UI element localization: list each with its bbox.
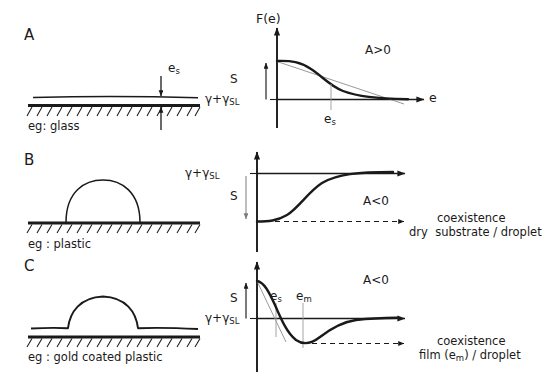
substrate-hatching-b <box>27 225 200 234</box>
diagram-vector-layer <box>0 0 552 385</box>
panel-b-schematic <box>27 180 200 233</box>
substrate-caption-a: eg: glass <box>28 120 79 133</box>
baseline-sub-c: SL <box>229 316 239 326</box>
panel-c-schematic <box>27 297 200 348</box>
spreading-coefficient-a: S <box>230 73 238 87</box>
substrate-caption-c: eg : gold coated plastic <box>28 351 163 364</box>
coexistence-line2-c: film (em) / droplet <box>419 348 521 363</box>
spreading-coefficient-c: S <box>230 292 238 306</box>
substrate-hatching-a <box>27 107 200 116</box>
baseline-sub-b: SL <box>209 171 219 181</box>
droplet-b <box>66 180 140 223</box>
y-axis-title-a: F(e) <box>256 12 281 26</box>
es-tick-sub-a: s <box>331 117 335 127</box>
figure-root: A eg: glass es F(e) e S γ+γSL A>0 es B e… <box>0 0 552 385</box>
coex-post-c: ) / droplet <box>464 348 521 362</box>
baseline-main-c: γ+γ <box>205 311 229 325</box>
coexistence-line2-b: dry substrate / droplet <box>409 225 542 239</box>
es-tick-label-a: es <box>324 113 336 128</box>
coex-sub-c: m <box>456 353 464 363</box>
es-tick-sub-c: s <box>277 294 281 304</box>
em-tick-label-c: em <box>296 290 312 305</box>
baseline-main-a: γ+γ <box>205 92 229 106</box>
em-tick-sub-c: m <box>303 294 311 304</box>
film-thickness-label-a: es <box>168 62 180 77</box>
panel-a-graph <box>266 28 424 128</box>
x-axis-title-a: e <box>429 91 437 105</box>
panel-letter-a: A <box>24 27 35 44</box>
substrate-hatching-c <box>27 339 200 348</box>
coexistence-line1-c: coexistence <box>437 334 506 348</box>
baseline-main-b: γ+γ <box>185 166 209 180</box>
film-thickness-sub-a: s <box>175 66 179 76</box>
substrate-caption-b: eg : plastic <box>28 238 91 251</box>
baseline-label-c: γ+γSL <box>205 312 239 327</box>
free-energy-curve-a <box>277 61 408 99</box>
panel-letter-c: C <box>24 258 35 275</box>
coex-pre-c: film (e <box>419 348 456 362</box>
hamaker-note-a: A>0 <box>365 44 391 58</box>
spreading-coefficient-b: S <box>230 190 238 204</box>
baseline-sub-a: SL <box>229 97 239 107</box>
hamaker-note-c: A<0 <box>363 274 389 288</box>
es-tick-label-c: es <box>270 290 282 305</box>
liquid-film-surface-a <box>33 96 198 97</box>
baseline-label-a: γ+γSL <box>205 93 239 108</box>
hamaker-note-b: A<0 <box>363 195 389 209</box>
droplet-on-film-c <box>31 297 198 330</box>
panel-letter-b: B <box>24 152 35 169</box>
baseline-label-b: γ+γSL <box>185 167 219 182</box>
coexistence-line1-b: coexistence <box>437 211 506 225</box>
